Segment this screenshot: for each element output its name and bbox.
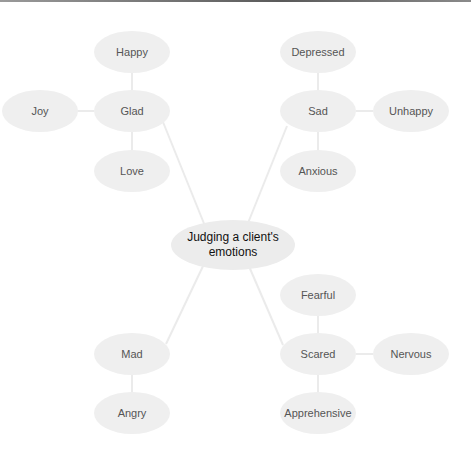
node-label: Love: [120, 165, 144, 177]
node-anxious[interactable]: Anxious: [280, 150, 356, 192]
node-mad[interactable]: Mad: [94, 333, 170, 375]
node-label: Depressed: [291, 46, 344, 58]
node-label: Unhappy: [389, 105, 433, 117]
node-apprehensive[interactable]: Apprehensive: [280, 392, 356, 434]
node-depressed[interactable]: Depressed: [280, 31, 356, 73]
node-label: Happy: [116, 46, 148, 58]
node-fearful[interactable]: Fearful: [280, 274, 356, 316]
node-scared[interactable]: Scared: [280, 333, 356, 375]
node-label: Scared: [301, 348, 336, 360]
center-node-label: Judging a client's emotions: [171, 230, 295, 260]
node-label: Anxious: [298, 165, 337, 177]
node-glad[interactable]: Glad: [94, 90, 170, 132]
node-joy[interactable]: Joy: [2, 90, 78, 132]
node-label: Glad: [120, 105, 143, 117]
node-label: Angry: [118, 407, 147, 419]
node-label: Mad: [121, 348, 142, 360]
node-sad[interactable]: Sad: [280, 90, 356, 132]
center-node-judging-emotions[interactable]: Judging a client's emotions: [171, 220, 295, 270]
node-unhappy[interactable]: Unhappy: [373, 90, 449, 132]
node-love[interactable]: Love: [94, 150, 170, 192]
node-angry[interactable]: Angry: [94, 392, 170, 434]
node-label: Apprehensive: [284, 407, 351, 419]
node-label: Fearful: [301, 289, 335, 301]
node-label: Sad: [308, 105, 328, 117]
node-nervous[interactable]: Nervous: [373, 333, 449, 375]
node-happy[interactable]: Happy: [94, 31, 170, 73]
node-label: Joy: [31, 105, 48, 117]
edge-center-scared: [248, 264, 283, 345]
node-label: Nervous: [391, 348, 432, 360]
edge-center-mad: [166, 264, 204, 344]
